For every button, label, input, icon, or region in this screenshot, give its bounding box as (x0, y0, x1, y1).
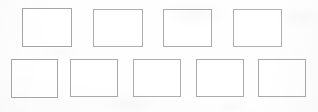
placeholder-box-7[interactable] (133, 59, 181, 97)
placeholder-box-8[interactable] (196, 59, 244, 97)
placeholder-box-3[interactable] (163, 9, 212, 47)
placeholder-box-1[interactable] (22, 8, 72, 47)
placeholder-box-5[interactable] (11, 59, 58, 98)
placeholder-box-4[interactable] (233, 9, 282, 47)
placeholder-grid-canvas (0, 0, 318, 112)
placeholder-box-9[interactable] (258, 59, 306, 97)
placeholder-box-2[interactable] (93, 9, 143, 47)
placeholder-box-6[interactable] (70, 59, 118, 97)
